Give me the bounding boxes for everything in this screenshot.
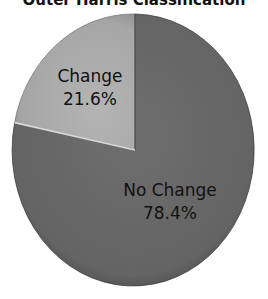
label-value: 78.4% — [110, 202, 230, 225]
label-value: 21.6% — [45, 88, 135, 111]
label-name: Change — [45, 65, 135, 88]
data-label-no-change: No Change 78.4% — [110, 179, 230, 225]
data-label-change: Change 21.6% — [45, 65, 135, 111]
pie-chart — [0, 0, 268, 299]
label-name: No Change — [110, 179, 230, 202]
